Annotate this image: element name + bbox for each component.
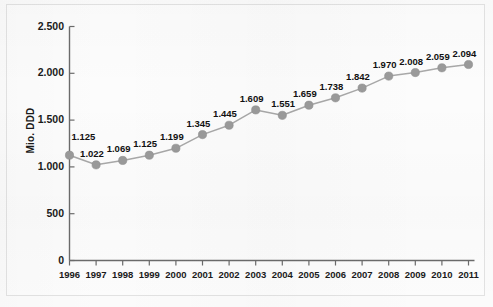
data-point-marker xyxy=(92,161,100,169)
data-point-label: 1.842 xyxy=(346,71,370,82)
data-point-label: 1.345 xyxy=(187,118,211,129)
data-point-label: 1.970 xyxy=(373,59,397,70)
data-point-marker xyxy=(411,68,419,76)
data-point-label: 1.738 xyxy=(320,81,344,92)
x-axis-ticks xyxy=(70,261,469,266)
data-point-marker xyxy=(172,144,180,152)
data-point-label: 1.445 xyxy=(213,108,237,119)
data-point-label: 1.022 xyxy=(80,148,104,159)
data-point-label: 1.125 xyxy=(72,131,96,142)
data-point-label: 2.008 xyxy=(399,56,423,67)
data-point-marker xyxy=(145,151,153,159)
data-point-marker xyxy=(252,106,260,114)
chart-container: Mio. DDD 05001.0001.5002.0002.500 199619… xyxy=(0,0,493,307)
data-point-marker xyxy=(198,131,206,139)
y-tick-label: 2.500 xyxy=(20,20,64,32)
data-point-marker xyxy=(305,101,313,109)
plot-area xyxy=(0,0,493,307)
y-tick-label: 500 xyxy=(20,207,64,219)
y-tick-label: 2.000 xyxy=(20,66,64,78)
data-point-marker xyxy=(464,60,472,68)
data-point-label: 1.659 xyxy=(293,88,317,99)
data-point-marker xyxy=(331,94,339,102)
data-point-label: 2.094 xyxy=(453,48,477,59)
data-point-marker xyxy=(358,84,366,92)
data-point-marker xyxy=(385,72,393,80)
data-point-label: 1.125 xyxy=(133,138,157,149)
data-point-marker xyxy=(65,151,73,159)
data-point-label: 1.609 xyxy=(240,93,264,104)
data-point-label: 2.059 xyxy=(426,51,450,62)
data-point-marker xyxy=(225,121,233,129)
y-tick-label: 1.500 xyxy=(20,113,64,125)
data-point-label: 1.069 xyxy=(107,143,131,154)
data-point-marker xyxy=(278,111,286,119)
data-point-marker xyxy=(438,64,446,72)
y-tick-label: 0 xyxy=(20,254,64,266)
y-axis-ticks xyxy=(70,27,75,261)
data-point-label: 1.551 xyxy=(271,98,295,109)
data-point-marker xyxy=(119,156,127,164)
data-point-label: 1.199 xyxy=(160,131,184,142)
y-tick-label: 1.000 xyxy=(20,160,64,172)
x-tick-label: 2011 xyxy=(452,269,486,280)
